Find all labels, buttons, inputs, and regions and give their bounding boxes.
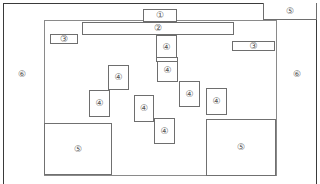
region-label: ④: [163, 66, 171, 75]
region-3-right: ③: [232, 41, 275, 51]
region-label: ②: [154, 24, 162, 33]
region-4-b-tab: [156, 57, 178, 62]
floor-plan-diagram: ⑤ ② ① ③ ③ ④ ④ ④ ④ ④ ④ ④ ④ ⑤ ⑤: [0, 0, 320, 184]
region-label: ④: [160, 127, 168, 136]
region-4-a: ④: [156, 35, 177, 59]
region-2: ②: [82, 22, 234, 35]
region-1: ①: [143, 9, 177, 22]
region-label: ⑤: [74, 145, 82, 154]
region-4-c: ④: [108, 65, 129, 90]
region-label: ⑤: [237, 143, 245, 152]
region-4-f: ④: [134, 95, 154, 122]
side-label-left: ⑥: [18, 70, 26, 79]
region-label: ③: [249, 42, 257, 51]
region-4-h: ④: [206, 88, 227, 115]
region-label: ④: [140, 104, 148, 113]
region-label: ③: [60, 35, 68, 44]
region-label: ①: [156, 11, 164, 20]
region-label: ④: [185, 90, 193, 99]
region-label: ⑤: [286, 7, 294, 16]
region-4-g: ④: [154, 118, 175, 144]
region-3-left: ③: [50, 34, 78, 44]
region-4-b: ④: [157, 59, 178, 82]
region-5-bottom-right: ⑤: [206, 119, 276, 176]
region-label: ④: [95, 99, 103, 108]
region-5-top-right: ⑤: [263, 3, 317, 20]
region-label: ④: [162, 43, 170, 52]
region-4-e: ④: [179, 81, 200, 107]
region-label: ④: [114, 73, 122, 82]
region-4-d: ④: [89, 90, 110, 117]
region-label: ④: [212, 97, 220, 106]
side-label-right: ⑥: [293, 70, 301, 79]
region-5-bottom-left: ⑤: [44, 123, 112, 175]
